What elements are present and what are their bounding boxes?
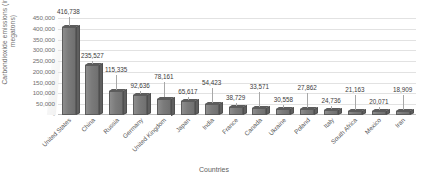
value-label-leader-line — [92, 61, 93, 64]
co2-emissions-bar-chart: Carbondioxide emissions (in metric megat… — [0, 0, 428, 183]
bar-value-label: 30,558 — [266, 97, 300, 103]
y-axis-tick-label: 450,000 — [22, 15, 55, 21]
y-axis-tick-label: 100,000 — [22, 90, 55, 96]
value-label-leader-line — [116, 75, 117, 90]
value-label-leader-line — [379, 107, 380, 110]
y-axis-tick-label: 200,000 — [22, 69, 55, 75]
value-label-leader-line — [140, 91, 141, 94]
bar-value-label: 33,571 — [242, 84, 276, 90]
bar-value-label: 115,335 — [99, 67, 133, 73]
bar-value-label: 92,636 — [123, 83, 157, 89]
value-label-leader-line — [307, 93, 308, 108]
value-label-leader-line — [403, 95, 404, 110]
value-label-leader-line — [355, 95, 356, 110]
y-axis-tick-label: 250,000 — [22, 58, 55, 64]
y-axis-tick-label: 50,000 — [22, 101, 55, 107]
bar-value-label: 18,909 — [386, 87, 420, 93]
data-labels-layer: 416,738235,527115,33592,63678,16165,6175… — [58, 18, 416, 115]
value-label-leader-line — [212, 88, 213, 103]
value-label-leader-line — [236, 103, 237, 106]
plot-area: 416,738235,527115,33592,63678,16165,6175… — [58, 18, 416, 115]
bar-value-label: 78,161 — [147, 74, 181, 80]
bar-value-label: 27,862 — [290, 85, 324, 91]
y-axis-tick-label: 400,000 — [22, 26, 55, 32]
value-label-leader-line — [188, 97, 189, 100]
value-label-leader-line — [69, 17, 70, 26]
bar-value-label: 416,738 — [52, 9, 86, 15]
y-axis-tick-label: - — [22, 112, 55, 118]
y-axis-tick-label: 300,000 — [22, 47, 55, 53]
y-axis-tick-label: 350,000 — [22, 37, 55, 43]
bar-value-label: 65,617 — [171, 89, 205, 95]
y-axis-tick-labels: 450,000400,000350,000300,000250,000200,0… — [22, 15, 55, 115]
value-label-leader-line — [283, 105, 284, 108]
bar-value-label: 54,423 — [195, 80, 229, 86]
bar-value-label: 21,163 — [338, 87, 372, 93]
bar-value-label: 24,736 — [314, 98, 348, 104]
value-label-leader-line — [164, 82, 165, 97]
x-axis-title: Countries — [0, 166, 428, 173]
bar-value-label: 20,071 — [362, 99, 396, 105]
bar-value-label: 235,527 — [75, 53, 109, 59]
value-label-leader-line — [259, 92, 260, 107]
bar-value-label: 38,729 — [219, 95, 253, 101]
y-axis-tick-label: 150,000 — [22, 80, 55, 86]
value-label-leader-line — [331, 106, 332, 109]
x-axis-tick-labels: United StatesChinaRussiaGermanyUnited Ki… — [58, 117, 416, 163]
